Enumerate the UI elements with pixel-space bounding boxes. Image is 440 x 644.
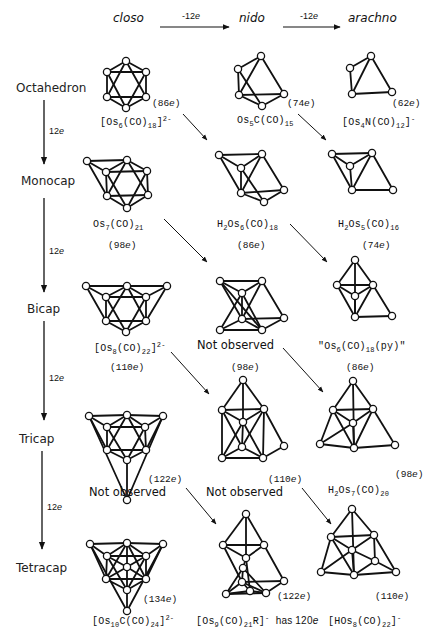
bond-edge [246,514,264,545]
diagonal-arrow-4 [171,352,209,394]
atom-node [239,418,246,425]
atom-node [280,186,287,193]
structure-tricap-nido [218,376,287,461]
atom-node [369,405,376,412]
transition-label-closo-nido: -12e [182,11,200,21]
row-transition-label-3: 12e [49,373,64,383]
atom-node [392,568,399,575]
bond-edge [127,415,163,416]
bond-edge [333,409,373,410]
atom-node [388,88,395,95]
atom-node [102,317,109,324]
not-observed-label: Not observed [197,338,274,352]
structure-os5c-co15 [234,52,287,109]
row-label-tetracap: Tetracap [16,561,67,575]
atom-node [143,167,150,174]
atom-node [368,149,375,156]
bond-edge [90,543,127,544]
structure-bicap-nido [216,277,287,333]
formula-label: [Os8(CO)22]2- [94,341,166,356]
atom-node [239,564,246,571]
atom-node [389,186,396,193]
structure-os9-co21r [219,510,287,597]
bond-edge [243,380,264,409]
electron-count-label: (74e) [362,240,391,251]
atom-node [238,443,245,450]
atom-node [349,419,356,426]
formula-label: [HOs8(CO)22]- [328,614,401,629]
column-header-closo: closo [113,11,144,25]
atom-node [103,93,110,100]
formula-label: Os7(CO)21 [93,219,143,232]
row-label-tricap: Tricap [19,432,54,446]
row-label-octahedron: Octahedron [16,81,86,95]
bond-edge [89,415,127,416]
atom-node [260,541,267,548]
bond-edge [331,535,374,537]
row-transition-label-1: 12e [49,126,64,136]
atom-node [237,164,244,171]
electron-count-label: (98e) [395,469,424,480]
bond-edge [239,94,284,95]
atom-node [142,68,149,75]
atom-node [258,150,265,157]
atom-node [346,162,353,169]
bond-edge [333,381,353,410]
atom-node [237,189,244,196]
formula-label: Os5C(CO)15 [237,115,294,128]
atom-node [329,406,336,413]
atom-node [102,293,109,300]
electron-count-label: (110e) [375,591,409,602]
atom-node [103,68,110,75]
bond-edge [263,409,264,458]
atom-node [246,587,253,594]
atom-node [142,293,149,300]
bond-edge [262,281,284,318]
row-transition-label-2: 12e [49,246,64,256]
electron-count-label: (74e) [287,98,316,109]
bond-edge [241,190,284,193]
atom-node [346,64,353,71]
atom-node [215,151,222,158]
atom-node [258,277,265,284]
atom-node [238,315,245,322]
atom-node [142,317,149,324]
atom-node [123,456,130,463]
atom-node [122,328,129,335]
bond-edge [320,444,354,448]
bond-edge [373,285,392,316]
atom-node [369,281,376,288]
atom-node [348,186,355,193]
atom-node [348,505,355,512]
cluster-structures [82,52,399,614]
row-label-bicap: Bicap [27,302,60,316]
atom-node [122,57,129,64]
structure-h2os7-co20 [316,377,398,451]
bond-edge [371,56,392,92]
atom-node [351,313,358,320]
atom-node [86,540,93,547]
atom-node [280,314,287,321]
atom-node [242,510,249,517]
electron-count-label: (98e) [231,362,260,373]
atom-node [123,563,130,570]
atom-node [367,52,374,59]
atom-node [122,104,129,111]
bond-edge [264,545,284,581]
bond-edge [242,318,284,319]
atom-node [102,575,109,582]
bond-edge [222,380,243,410]
electron-count-label: (122e) [148,474,182,485]
structure-os4n-co12 [346,52,395,97]
bond-edge [355,260,373,285]
atom-node [351,256,358,263]
bond-edge [354,572,396,575]
electron-count-label: (98e) [108,240,137,251]
bond-edge [353,381,373,409]
bond-edge [332,154,352,190]
structure-h2os6-co18 [215,150,287,205]
cluster-diagram-canvas [0,0,440,644]
atom-node [163,282,170,289]
atom-node [123,204,130,211]
bond-edge [352,92,392,94]
